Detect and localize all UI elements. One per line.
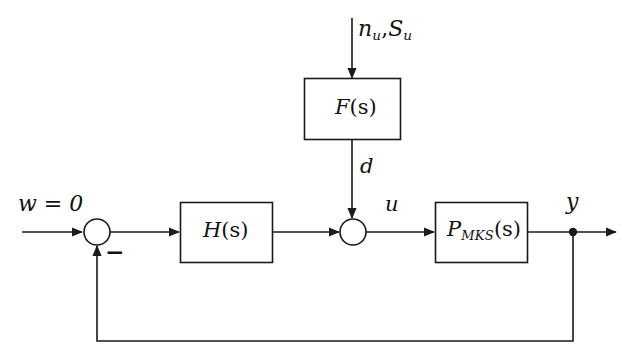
diagram-canvas [0, 0, 633, 362]
label-plant-transfer-function: PMKS(s) [447, 219, 521, 242]
label-plant-argument: (s) [494, 217, 521, 241]
label-controller-symbol: H [203, 218, 221, 242]
label-reference-input: w = 0 [18, 193, 83, 215]
label-noise-n: n [358, 16, 372, 41]
label-output-signal: y [566, 191, 578, 213]
label-noise-n-subscript: u [372, 27, 381, 43]
label-noise-S-subscript: u [403, 27, 412, 43]
label-sum-negative-sign: − [105, 240, 124, 263]
junction-dot-output [569, 228, 577, 236]
label-disturbance: d [360, 156, 373, 177]
label-filter-symbol: F [335, 95, 350, 119]
label-noise-input: nu,Su [358, 18, 412, 43]
label-filter-transfer-function: F(s) [335, 97, 377, 118]
label-plant-subscript: MKS [461, 228, 494, 243]
label-control-signal: u [385, 194, 399, 215]
label-noise-S: S [388, 16, 403, 41]
block-diagram: nu,Su F(s) d w = 0 − H(s) u PMKS(s) y [0, 0, 633, 362]
label-controller-argument: (s) [221, 218, 248, 242]
label-plant-symbol: P [447, 217, 461, 241]
label-controller-transfer-function: H(s) [203, 220, 249, 241]
label-filter-argument: (s) [350, 95, 377, 119]
summing-junction-mid [340, 219, 366, 245]
